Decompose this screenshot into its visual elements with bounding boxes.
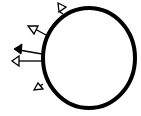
open-arrowhead-icon <box>58 3 66 12</box>
arrow-top <box>58 3 66 14</box>
open-arrowhead-icon <box>12 56 19 66</box>
arrow-middle-filled <box>14 44 42 54</box>
arrow-upper-left <box>28 26 46 35</box>
arrow-middle-open <box>12 56 42 66</box>
diagram-canvas <box>0 0 141 116</box>
diagram-stage <box>0 0 141 116</box>
open-arrowhead-icon <box>28 26 38 34</box>
open-arrowhead-icon <box>34 83 43 90</box>
circle-shape <box>43 8 135 108</box>
filled-arrowhead-icon <box>14 44 22 54</box>
arrow-bottom-left <box>34 83 43 90</box>
